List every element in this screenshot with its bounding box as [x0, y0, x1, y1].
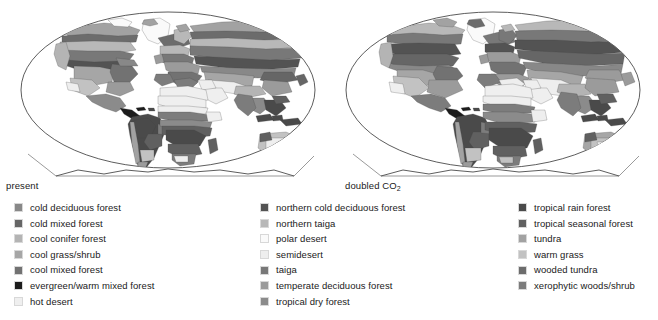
legend-item: tropical seasonal forest [518, 216, 658, 232]
legend-swatch [260, 266, 269, 275]
legend-label: polar desert [276, 234, 327, 244]
legend-swatch [518, 219, 527, 228]
legend-swatch [518, 234, 527, 243]
legend-label: cool mixed forest [30, 265, 103, 275]
legend-item: northern cold deciduous forest [260, 200, 512, 216]
legend-swatch [14, 203, 23, 212]
legend-item: taiga [260, 262, 512, 278]
legend-swatch [14, 250, 23, 259]
figure-root: present doubled CO2 cold deciduous fores… [0, 0, 658, 320]
legend-swatch [260, 219, 269, 228]
legend-item: tropical rain forest [518, 200, 658, 216]
legend-item: polar desert [260, 231, 512, 247]
legend-item: semidesert [260, 247, 512, 263]
caption-subscript: 2 [397, 185, 401, 192]
legend-label: cool conifer forest [30, 234, 106, 244]
legend-label: cool grass/shrub [30, 250, 101, 260]
world-map-present [8, 4, 328, 182]
map-panel-doubled [333, 4, 653, 182]
legend-label: tropical rain forest [534, 203, 611, 213]
legend-swatch [14, 234, 23, 243]
legend-label: wooded tundra [534, 265, 598, 275]
legend-swatch [260, 281, 269, 290]
legend-column-3: tropical rain forest tropical seasonal f… [518, 200, 658, 294]
legend-item: tropical dry forest [260, 294, 512, 310]
legend-swatch [14, 281, 23, 290]
legend-item: evergreen/warm mixed forest [14, 278, 254, 294]
legend-label: cold deciduous forest [30, 203, 121, 213]
legend-label: xerophytic woods/shrub [534, 281, 635, 291]
legend-label: temperate deciduous forest [276, 281, 392, 291]
legend-label: tundra [534, 234, 561, 244]
legend-swatch [14, 266, 23, 275]
legend-label: northern cold deciduous forest [276, 203, 405, 213]
legend-item: hot desert [14, 294, 254, 310]
legend-item: warm grass [518, 247, 658, 263]
caption-text: doubled CO [345, 180, 397, 191]
legend-item: cold deciduous forest [14, 200, 254, 216]
legend-swatch [14, 297, 23, 306]
legend-swatch [260, 234, 269, 243]
legend-label: warm grass [534, 250, 584, 260]
map-panel-present [8, 4, 328, 182]
legend-swatch [260, 250, 269, 259]
legend-swatch [518, 281, 527, 290]
legend-swatch [260, 297, 269, 306]
legend-item: wooded tundra [518, 262, 658, 278]
legend-swatch [260, 203, 269, 212]
caption-text: present [6, 180, 38, 191]
legend-label: cold mixed forest [30, 219, 103, 229]
legend-item: cool conifer forest [14, 231, 254, 247]
legend-item: northern taiga [260, 216, 512, 232]
legend-item: xerophytic woods/shrub [518, 278, 658, 294]
legend-label: evergreen/warm mixed forest [30, 281, 154, 291]
legend-swatch [518, 250, 527, 259]
legend-item: temperate deciduous forest [260, 278, 512, 294]
panel-caption-present: present [6, 180, 38, 191]
legend-swatch [518, 266, 527, 275]
legend-label: hot desert [30, 297, 73, 307]
legend-item: cool grass/shrub [14, 247, 254, 263]
legend-label: tropical dry forest [276, 297, 350, 307]
world-map-doubled-co2 [333, 4, 653, 182]
legend-item: cold mixed forest [14, 216, 254, 232]
panel-caption-doubled: doubled CO2 [345, 180, 401, 191]
legend-item: cool mixed forest [14, 262, 254, 278]
legend-column-1: cold deciduous forest cold mixed forest … [14, 200, 254, 309]
legend: cold deciduous forest cold mixed forest … [0, 200, 658, 320]
legend-column-2: northern cold deciduous forest northern … [260, 200, 512, 309]
legend-label: semidesert [276, 250, 323, 260]
legend-label: tropical seasonal forest [534, 219, 633, 229]
legend-item: tundra [518, 231, 658, 247]
legend-label: northern taiga [276, 219, 335, 229]
legend-label: taiga [276, 265, 297, 275]
legend-swatch [14, 219, 23, 228]
legend-swatch [518, 203, 527, 212]
